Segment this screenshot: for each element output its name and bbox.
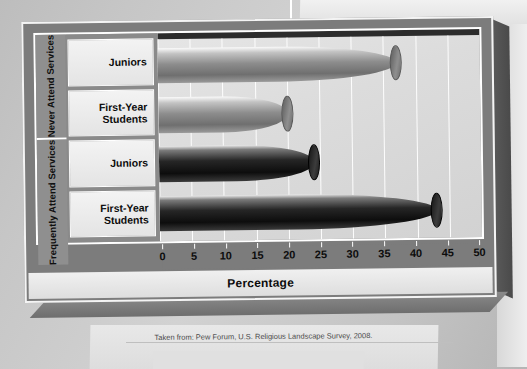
chart-figure: Never Attend Services Frequently Attend …	[21, 16, 497, 303]
group-label-rail: Never Attend Services Frequently Attend …	[35, 35, 68, 243]
tick-mark-30	[352, 242, 353, 247]
bar-1-1[interactable]	[159, 192, 436, 231]
tick-label-20: 20	[283, 249, 295, 261]
plot-area	[157, 29, 482, 241]
series-label-never-first-year-text: First-Year Students	[69, 100, 147, 125]
bar-slot	[157, 39, 480, 88]
x-axis: 05101520253035404550	[162, 243, 479, 269]
bar-slot	[158, 88, 481, 137]
tick-mark-15	[257, 243, 258, 248]
bar-end-cap	[307, 145, 319, 180]
chart-frame: Never Attend Services Frequently Attend …	[21, 16, 497, 303]
bar-series	[157, 35, 482, 241]
group-label-frequently-attend-text: Frequently Attend Services	[46, 139, 58, 264]
tick-mark-10	[226, 243, 227, 248]
bar-1-0[interactable]	[159, 145, 314, 182]
tick-mark-0	[162, 244, 163, 249]
bar-0-0[interactable]	[158, 45, 397, 83]
x-axis-title-band: Percentage	[28, 267, 492, 299]
tick-mark-20	[289, 243, 290, 248]
series-label-never-first-year: First-Year Students	[68, 89, 155, 137]
bar-end-cap	[281, 96, 293, 131]
series-label-frequently-juniors-text: Juniors	[110, 157, 148, 169]
group-label-frequently-attend: Frequently Attend Services	[37, 139, 69, 265]
tick-mark-35	[384, 241, 385, 246]
bar-slot	[159, 138, 482, 187]
tick-label-35: 35	[378, 247, 390, 259]
x-axis-title: Percentage	[227, 276, 294, 291]
group-label-never-attend: Never Attend Services	[35, 35, 66, 140]
bar-end-cap	[430, 192, 442, 227]
bar-end-cap	[390, 45, 402, 80]
paper-sheet-edge-line	[126, 342, 453, 343]
tick-label-25: 25	[315, 248, 327, 260]
group-label-never-attend-text: Never Attend Services	[45, 35, 57, 138]
tick-mark-40	[416, 241, 417, 246]
tick-label-0: 0	[159, 250, 165, 262]
tick-label-40: 40	[410, 247, 422, 259]
tick-mark-50	[479, 240, 480, 245]
tick-label-50: 50	[473, 246, 485, 258]
chart-plot-region: Never Attend Services Frequently Attend …	[33, 27, 484, 245]
series-label-rail: Juniors First-Year Students Juniors Firs…	[65, 33, 160, 242]
tick-mark-5	[194, 244, 195, 249]
tick-label-30: 30	[346, 248, 358, 260]
bar-slot	[159, 187, 482, 236]
paper-sheet-bottom-inner	[153, 351, 364, 369]
series-label-frequently-juniors: Juniors	[69, 139, 156, 187]
tick-label-15: 15	[251, 249, 263, 261]
series-label-frequently-first-year: First-Year Students	[69, 190, 156, 238]
tick-label-5: 5	[191, 250, 197, 262]
tick-label-10: 10	[220, 249, 232, 261]
tick-label-45: 45	[442, 246, 454, 258]
tick-mark-25	[321, 242, 322, 247]
series-label-frequently-first-year-text: First-Year Students	[71, 201, 149, 226]
series-label-never-juniors-text: Juniors	[109, 56, 147, 68]
bar-0-1[interactable]	[158, 96, 287, 133]
tick-mark-45	[448, 241, 449, 246]
series-label-never-juniors: Juniors	[67, 38, 154, 86]
